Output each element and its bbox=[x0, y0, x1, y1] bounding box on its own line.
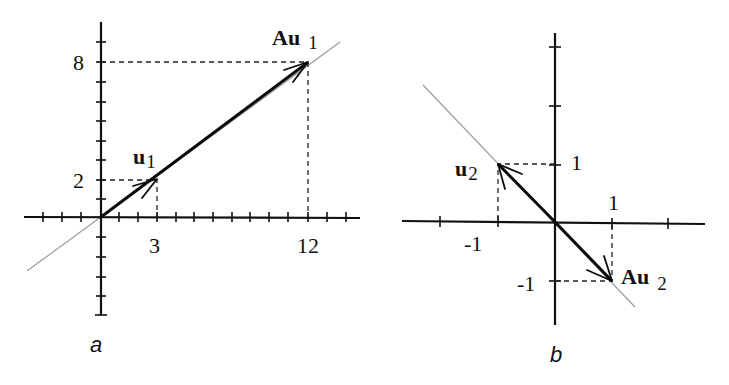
y-label-8: 8 bbox=[73, 50, 84, 75]
vector-au2 bbox=[555, 222, 611, 280]
y-label-2: 2 bbox=[73, 168, 84, 193]
y-label-1: 1 bbox=[571, 150, 582, 175]
label-u1: u1 bbox=[133, 144, 156, 172]
y-label-neg1: -1 bbox=[517, 271, 535, 296]
arrowhead-u1 bbox=[133, 179, 157, 198]
label-au1: Au1 bbox=[272, 25, 318, 53]
panel-b: 1 1 -1 -1 u2 Au2 b bbox=[402, 33, 705, 367]
label-au2: Au2 bbox=[621, 264, 667, 294]
panel-label-a: a bbox=[90, 332, 102, 357]
vector-au1 bbox=[101, 63, 307, 217]
x-axis-a bbox=[24, 217, 360, 218]
x-label-1: 1 bbox=[608, 190, 619, 215]
panel-label-b: b bbox=[550, 342, 562, 367]
x-label-3: 3 bbox=[149, 233, 160, 258]
label-u2: u2 bbox=[455, 156, 478, 184]
panel-a: 8 2 3 12 u1 Au1 a bbox=[24, 22, 360, 357]
x-label-neg1: -1 bbox=[464, 231, 482, 256]
x-label-12: 12 bbox=[297, 233, 319, 258]
eigenvector-figure: 8 2 3 12 u1 Au1 a bbox=[0, 0, 729, 385]
vector-u2 bbox=[499, 165, 555, 222]
